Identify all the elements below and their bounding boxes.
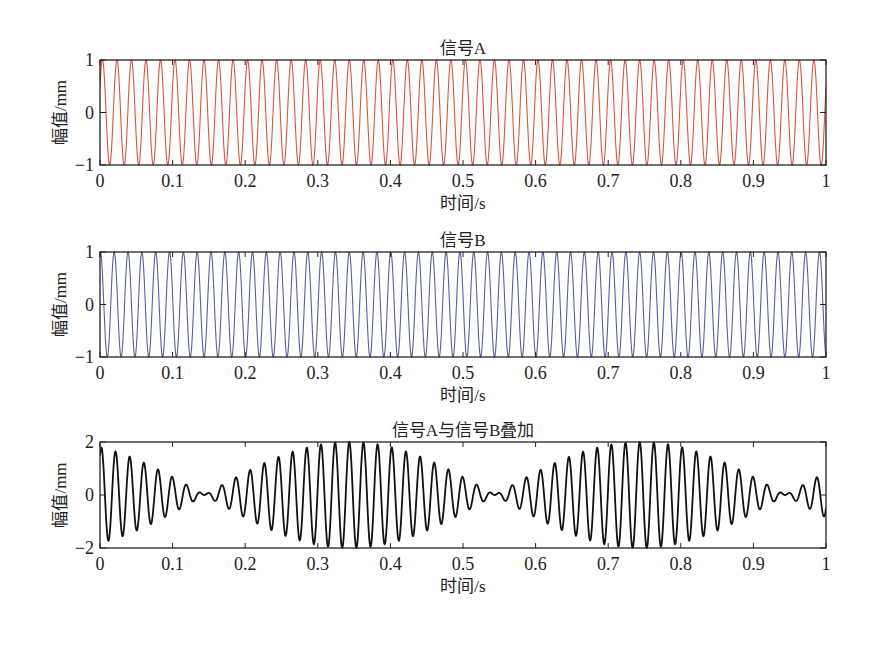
y-tick-label: 0 [85, 485, 94, 505]
y-tick-label: 0 [85, 103, 94, 123]
y-tick-label: −1 [75, 155, 94, 175]
x-tick-label: 0.7 [597, 363, 620, 383]
x-tick-label: 1 [822, 171, 831, 191]
subplot-1: 00.10.20.30.40.50.60.70.80.91−101信号A时间/s… [51, 39, 831, 213]
x-tick-label: 0.2 [234, 171, 257, 191]
signal-line [100, 252, 826, 357]
x-axis-label: 时间/s [440, 386, 485, 405]
y-tick-label: 1 [85, 50, 94, 70]
x-tick-label: 0.8 [670, 363, 693, 383]
y-tick-label: 2 [85, 432, 94, 452]
x-tick-label: 0.1 [161, 363, 184, 383]
y-axis-label: 幅值/mm [51, 272, 70, 337]
x-tick-label: 1 [822, 554, 831, 574]
x-tick-label: 0.3 [307, 554, 330, 574]
x-tick-label: 0.6 [524, 171, 547, 191]
y-axis-label: 幅值/mm [51, 80, 70, 145]
x-tick-label: 0.7 [597, 171, 620, 191]
x-tick-label: 0 [96, 363, 105, 383]
subplot-2: 00.10.20.30.40.50.60.70.80.91−101信号B时间/s… [51, 231, 831, 405]
y-tick-label: 0 [85, 295, 94, 315]
x-tick-label: 0.4 [379, 171, 402, 191]
x-tick-label: 0 [96, 554, 105, 574]
x-tick-label: 0.2 [234, 363, 257, 383]
subplot-title: 信号A [440, 39, 487, 58]
axes-box [100, 60, 826, 165]
x-tick-label: 1 [822, 363, 831, 383]
x-tick-label: 0.3 [307, 171, 330, 191]
x-tick-label: 0.1 [161, 554, 184, 574]
x-tick-label: 0.5 [452, 554, 475, 574]
x-tick-label: 0.1 [161, 171, 184, 191]
x-tick-label: 0.3 [307, 363, 330, 383]
x-tick-label: 0.9 [742, 171, 765, 191]
y-axis-label: 幅值/mm [51, 462, 70, 527]
x-tick-label: 0.9 [742, 554, 765, 574]
y-tick-label: −1 [75, 347, 94, 367]
x-tick-label: 0.6 [524, 554, 547, 574]
figure: 00.10.20.30.40.50.60.70.80.91−101信号A时间/s… [0, 0, 874, 647]
x-axis-label: 时间/s [440, 194, 485, 213]
x-tick-label: 0.2 [234, 554, 257, 574]
signal-line [100, 442, 826, 548]
x-tick-label: 0.5 [452, 171, 475, 191]
x-tick-label: 0.4 [379, 554, 402, 574]
subplot-title: 信号A与信号B叠加 [392, 421, 535, 440]
x-tick-label: 0.9 [742, 363, 765, 383]
y-tick-label: 1 [85, 242, 94, 262]
x-tick-label: 0.8 [670, 554, 693, 574]
subplot-3: 00.10.20.30.40.50.60.70.80.91−202信号A与信号B… [51, 421, 831, 596]
x-tick-label: 0 [96, 171, 105, 191]
subplot-title: 信号B [440, 231, 485, 250]
x-axis-label: 时间/s [440, 577, 485, 596]
x-tick-label: 0.7 [597, 554, 620, 574]
signal-line [100, 60, 826, 165]
x-tick-label: 0.4 [379, 363, 402, 383]
x-tick-label: 0.5 [452, 363, 475, 383]
x-tick-label: 0.8 [670, 171, 693, 191]
x-tick-label: 0.6 [524, 363, 547, 383]
y-tick-label: −2 [75, 538, 94, 558]
axes-box [100, 442, 826, 548]
